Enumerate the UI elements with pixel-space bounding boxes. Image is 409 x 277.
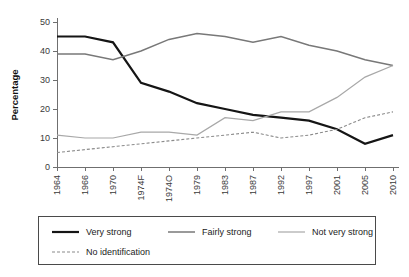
x-tick-label: 2001: [332, 175, 342, 195]
x-tick-label: 1964: [52, 175, 62, 195]
x-tick-label: 1983: [220, 175, 230, 195]
x-axis-ticks: 1964196619701974F1974O197919831987199219…: [52, 167, 398, 202]
legend-label-not-very-strong[interactable]: Not very strong: [312, 227, 373, 237]
y-tick-label: 40: [40, 46, 50, 56]
x-tick-label: 2010: [388, 175, 398, 195]
legend-label-fairly-strong[interactable]: Fairly strong: [202, 227, 252, 237]
series-line-not-very-strong: [57, 66, 393, 139]
x-axis-group: 1964196619701974F1974O197919831987199219…: [52, 167, 399, 202]
series-lines: [57, 34, 393, 153]
y-tick-label: 30: [40, 75, 50, 85]
x-tick-label: 2005: [360, 175, 370, 195]
y-tick-label: 20: [40, 104, 50, 114]
legend-label-very-strong[interactable]: Very strong: [86, 227, 132, 237]
line-chart: 01020304050 Percentage 1964196619701974F…: [0, 0, 409, 277]
x-tick-label: 1979: [192, 175, 202, 195]
y-axis-group: 01020304050 Percentage: [9, 17, 57, 172]
y-axis-title: Percentage: [9, 69, 20, 120]
y-tick-label: 0: [45, 162, 50, 172]
x-tick-label: 1966: [80, 175, 90, 195]
x-tick-label: 1974O: [164, 175, 174, 202]
legend-label-no-identification[interactable]: No identification: [86, 247, 150, 257]
y-axis-ticks: 01020304050: [40, 17, 57, 172]
x-tick-label: 1992: [276, 175, 286, 195]
x-tick-label: 1987: [248, 175, 258, 195]
x-tick-label: 1974F: [136, 175, 146, 201]
chart-legend: Very strongFairly strongNot very strongN…: [38, 216, 375, 264]
y-tick-label: 50: [40, 17, 50, 27]
y-tick-label: 10: [40, 133, 50, 143]
x-tick-label: 1997: [304, 175, 314, 195]
chart-container: 01020304050 Percentage 1964196619701974F…: [0, 0, 409, 277]
series-line-fairly-strong: [57, 34, 393, 66]
x-tick-label: 1970: [108, 175, 118, 195]
